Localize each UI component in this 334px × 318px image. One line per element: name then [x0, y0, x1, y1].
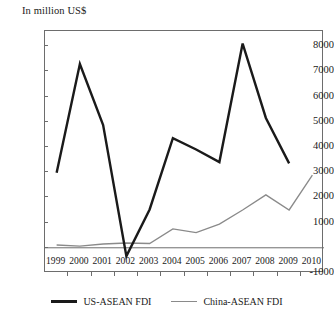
- x-axis-tick-label: 2005: [184, 255, 207, 266]
- y-axis-tick-label: 4000: [294, 141, 334, 151]
- legend-label-us-asean-fdi: US-ASEAN FDI: [83, 296, 151, 307]
- x-axis-tick-mark: [253, 272, 254, 276]
- x-axis-tick-label: 2003: [137, 255, 160, 266]
- series-line-us-asean-fdi: [57, 44, 290, 257]
- y-axis-tick-mark: [44, 171, 48, 172]
- y-axis-tick-mark: [44, 196, 48, 197]
- x-axis-tick-label: 2004: [160, 255, 183, 266]
- y-axis-tick-label: 5000: [294, 116, 334, 126]
- x-axis-tick-label: 2000: [67, 255, 90, 266]
- y-axis-tick-label: 8000: [294, 40, 334, 50]
- x-axis-tick-label: 2010: [300, 255, 323, 266]
- x-axis-tick-mark: [230, 272, 231, 276]
- x-axis-tick-mark: [137, 272, 138, 276]
- x-axis-tick-mark: [184, 272, 185, 276]
- legend-item-china-asean-fdi: China-ASEAN FDI: [171, 296, 282, 307]
- line-swatch-icon-china: [171, 301, 197, 302]
- x-axis-tick-label: 2002: [114, 255, 137, 266]
- y-axis-tick-label: 7000: [294, 65, 334, 75]
- x-axis-tick-mark: [277, 272, 278, 276]
- y-axis-tick-label: 2000: [294, 191, 334, 201]
- chart-legend: US-ASEAN FDI China-ASEAN FDI: [0, 296, 334, 307]
- y-axis-tick-label: 6000: [294, 91, 334, 101]
- chart-unit-title: In million US$: [22, 5, 86, 16]
- x-axis-tick-label: 2001: [91, 255, 114, 266]
- series-canvas: [45, 31, 324, 273]
- legend-item-us-asean-fdi: US-ASEAN FDI: [51, 296, 151, 307]
- x-axis-tick-mark: [300, 272, 301, 276]
- y-axis-tick-mark: [44, 70, 48, 71]
- fdi-line-chart: In million US$ 8000700060005000400030002…: [0, 0, 334, 318]
- x-axis-tick-label: 2006: [207, 255, 230, 266]
- y-axis-tick-mark: [44, 121, 48, 122]
- x-axis-tick-mark: [207, 272, 208, 276]
- series-line-china-asean-fdi: [57, 175, 313, 246]
- line-swatch-icon-us: [51, 300, 77, 302]
- y-axis-tick-mark: [44, 146, 48, 147]
- y-axis-tick-mark: [44, 247, 48, 248]
- x-axis-tick-mark: [160, 272, 161, 276]
- y-axis-tick-label: 1000: [294, 217, 334, 227]
- y-axis-tick-mark: [44, 222, 48, 223]
- y-axis-tick-label: 3000: [294, 166, 334, 176]
- x-axis-tick-label: 2009: [277, 255, 300, 266]
- x-axis-tick-mark: [114, 272, 115, 276]
- x-axis-tick-label: 2008: [253, 255, 276, 266]
- x-axis-tick-mark: [91, 272, 92, 276]
- y-axis-tick-mark: [44, 96, 48, 97]
- legend-label-china-asean-fdi: China-ASEAN FDI: [203, 296, 282, 307]
- x-axis-tick-label: 1999: [44, 255, 67, 266]
- y-axis-tick-mark: [44, 45, 48, 46]
- x-axis-tick-mark: [67, 272, 68, 276]
- x-axis-tick-label: 2007: [230, 255, 253, 266]
- plot-area: [44, 30, 323, 272]
